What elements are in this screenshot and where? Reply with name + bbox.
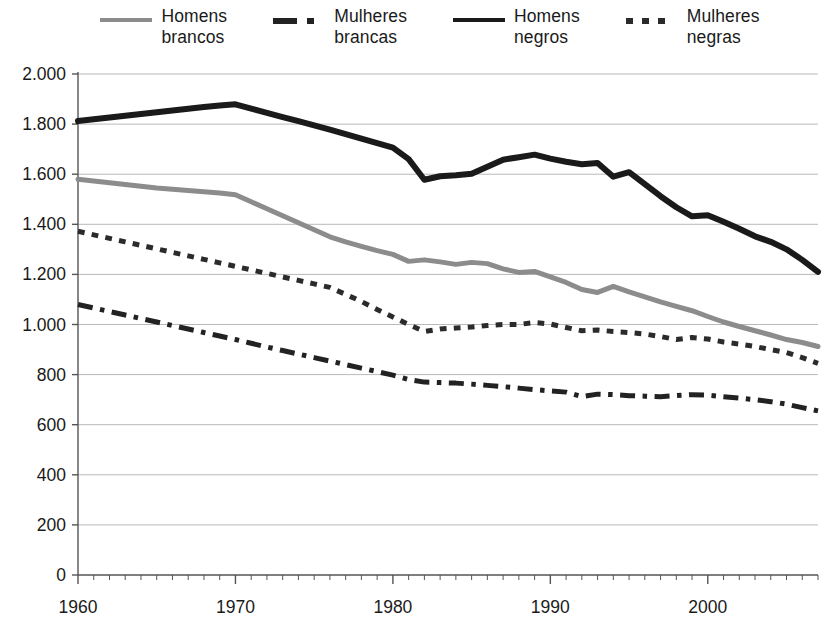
x-tick-label: 1960 (59, 597, 98, 617)
y-tick-label: 600 (37, 415, 66, 435)
line-chart-svg: 02004006008001.0001.2001.4001.6001.8002.… (0, 0, 832, 634)
y-tick-label: 1.000 (22, 315, 66, 335)
y-tick-label: 2.000 (22, 64, 66, 84)
x-tick-label: 2000 (688, 597, 727, 617)
series-line-mulheres_negras (78, 231, 818, 363)
y-tick-label: 0 (56, 565, 66, 585)
y-tick-label: 200 (37, 515, 66, 535)
series-layer (78, 104, 818, 411)
series-line-mulheres_brancas (78, 304, 818, 410)
y-tick-labels: 02004006008001.0001.2001.4001.6001.8002.… (22, 64, 66, 585)
x-tick-label: 1970 (216, 597, 255, 617)
y-tick-label: 1.600 (22, 164, 66, 184)
y-axis (72, 72, 78, 575)
chart-container: Homens brancos Mulheres brancas Homens n… (0, 0, 832, 634)
y-tick-label: 1.800 (22, 114, 66, 134)
series-line-homens_brancos (78, 179, 818, 346)
y-tick-label: 400 (37, 465, 66, 485)
x-tick-label: 1980 (373, 597, 412, 617)
x-axis (78, 575, 818, 584)
y-tick-label: 1.400 (22, 214, 66, 234)
x-tick-labels: 19601970198019902000 (59, 597, 728, 617)
x-tick-label: 1990 (531, 597, 570, 617)
y-tick-label: 1.200 (22, 264, 66, 284)
gridlines (78, 74, 818, 525)
plot-area: 02004006008001.0001.2001.4001.6001.8002.… (0, 0, 832, 634)
y-tick-label: 800 (37, 365, 66, 385)
